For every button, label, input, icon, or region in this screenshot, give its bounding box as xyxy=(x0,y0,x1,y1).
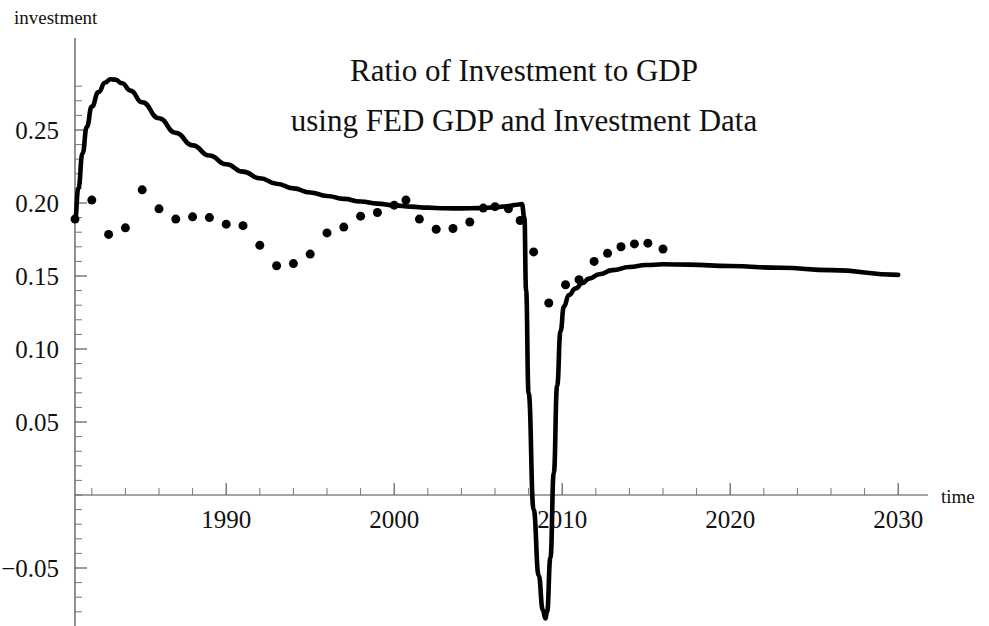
data-point-marker xyxy=(491,202,500,211)
y-axis-tick-label: 0.20 xyxy=(15,190,59,217)
data-point-marker xyxy=(356,212,365,221)
model-curve-line xyxy=(75,79,898,618)
data-point-marker xyxy=(479,204,488,213)
data-point-marker xyxy=(104,230,113,239)
investment-gdp-chart: 19902000201020202030 0.250.200.150.100.0… xyxy=(0,0,989,626)
x-axis-tick-label: 1990 xyxy=(201,506,251,533)
y-axis-tick-label: 0.15 xyxy=(15,263,59,290)
data-point-marker xyxy=(603,249,612,258)
data-point-marker xyxy=(323,228,332,237)
x-axis-tick-label: 2010 xyxy=(537,506,587,533)
x-axis-label: time xyxy=(941,486,975,507)
data-layer xyxy=(71,79,899,618)
data-point-marker xyxy=(432,225,441,234)
y-axis-tick-label: 0.25 xyxy=(15,117,59,144)
chart-page: 19902000201020202030 0.250.200.150.100.0… xyxy=(0,0,989,626)
chart-subtitle: using FED GDP and Investment Data xyxy=(291,103,758,138)
data-point-marker xyxy=(630,239,639,248)
data-point-marker xyxy=(171,215,180,224)
y-axis-label: investment xyxy=(14,7,98,28)
data-point-marker xyxy=(617,242,626,251)
data-point-marker xyxy=(239,221,248,230)
x-axis-tick-label: 2020 xyxy=(705,506,755,533)
data-point-marker xyxy=(87,196,96,205)
y-axis-tick-label: −0.05 xyxy=(1,555,59,582)
data-point-marker xyxy=(544,299,553,308)
data-point-marker xyxy=(71,215,80,224)
y-axis-tick-label: 0.05 xyxy=(15,409,59,436)
data-point-marker xyxy=(289,259,298,268)
x-axis-tick-label: 2030 xyxy=(873,506,923,533)
data-point-marker xyxy=(659,244,668,253)
data-point-marker xyxy=(516,216,525,225)
y-axis-tick-labels: 0.250.200.150.100.05−0.05 xyxy=(1,117,59,582)
data-point-marker xyxy=(272,261,281,270)
data-point-marker xyxy=(575,275,584,284)
data-point-marker xyxy=(415,215,424,224)
data-point-marker xyxy=(590,257,599,266)
data-point-marker xyxy=(306,250,315,259)
data-point-marker xyxy=(643,239,652,248)
x-axis-tick-labels: 19902000201020202030 xyxy=(201,506,923,533)
x-axis-ticks xyxy=(92,483,898,495)
x-axis-tick-label: 2000 xyxy=(369,506,419,533)
data-point-marker xyxy=(222,220,231,229)
data-point-marker xyxy=(188,212,197,221)
data-point-marker xyxy=(255,241,264,250)
data-point-marker xyxy=(561,280,570,289)
data-point-marker xyxy=(401,196,410,205)
data-point-marker xyxy=(390,201,399,210)
data-point-marker xyxy=(155,204,164,213)
data-point-marker xyxy=(138,185,147,194)
data-point-marker xyxy=(504,204,513,213)
data-point-marker xyxy=(339,223,348,232)
data-point-marker xyxy=(449,224,458,233)
y-axis-tick-label: 0.10 xyxy=(15,336,59,363)
data-point-marker xyxy=(205,213,214,222)
data-point-marker xyxy=(121,223,130,232)
chart-title: Ratio of Investment to GDP xyxy=(350,53,698,88)
data-point-marker xyxy=(529,247,538,256)
data-point-marker xyxy=(465,217,474,226)
data-point-marker xyxy=(373,208,382,217)
